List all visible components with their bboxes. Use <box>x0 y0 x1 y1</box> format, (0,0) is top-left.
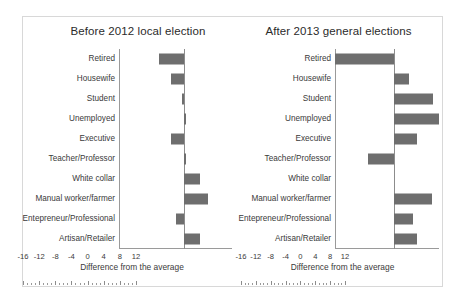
category-label: Unemployed <box>285 115 331 123</box>
plot-left-border <box>119 49 120 249</box>
axis-tick-label: 0 <box>85 253 89 261</box>
bar <box>394 214 413 225</box>
axis-minor-tick <box>92 283 93 285</box>
axis-minor-tick <box>128 283 129 285</box>
category-label: Executive <box>80 135 116 143</box>
axis-minor-tick <box>293 283 294 285</box>
axis-minor-tick <box>47 283 48 285</box>
category-label: Student <box>303 95 331 103</box>
axis-minor-tick <box>289 283 290 285</box>
axis-tick-label: -12 <box>250 253 261 261</box>
category-label: Entepreneur/Professional <box>239 215 331 223</box>
bar <box>335 54 394 65</box>
category-label: Entepreneur/Professional <box>23 215 115 223</box>
plot-area-after: RetiredHousewifeStudentUnemployedExecuti… <box>335 49 439 249</box>
bar <box>394 114 439 125</box>
axis-tick-label: 8 <box>328 253 332 261</box>
axis-minor-tick <box>282 283 283 285</box>
axis-tick-label: 0 <box>298 253 302 261</box>
axis-minor-tick <box>304 283 305 285</box>
axis-tick <box>120 281 121 285</box>
category-label: Manual worker/farmer <box>251 195 331 203</box>
x-axis-title-before: Difference from the average <box>23 263 241 271</box>
bar <box>171 134 183 145</box>
x-axis-after: -16-12-8-404812 Difference from the aver… <box>241 249 444 285</box>
axis-tick-label: 4 <box>102 253 106 261</box>
axis-minor-tick <box>248 283 249 285</box>
axis-minor-tick <box>80 283 81 285</box>
bar <box>171 74 183 85</box>
panel-title-before: Before 2012 local election <box>29 25 247 37</box>
axis-minor-tick <box>308 283 309 285</box>
x-axis-title-after: Difference from the average <box>241 263 444 271</box>
axis-minor-tick <box>323 283 324 285</box>
category-label: Retired <box>89 55 115 63</box>
axis-minor-tick <box>51 283 52 285</box>
axis-tick-label: 8 <box>118 253 122 261</box>
axis-minor-tick <box>59 283 60 285</box>
bar <box>184 234 200 245</box>
axis-minor-tick <box>124 283 125 285</box>
category-label: Retired <box>305 55 331 63</box>
category-label: White collar <box>72 175 115 183</box>
axis-minor-tick <box>245 283 246 285</box>
axis-tick-label: -8 <box>267 253 274 261</box>
axis-tick-label: -16 <box>18 253 29 261</box>
axis-tick-label: 12 <box>132 253 140 261</box>
category-label: Artisan/Retailer <box>275 235 331 243</box>
category-label: Housewife <box>77 75 115 83</box>
axis-tick <box>39 281 40 285</box>
bar <box>184 194 208 205</box>
category-label: White collar <box>288 175 331 183</box>
bar <box>394 74 409 85</box>
axis-minor-tick <box>278 283 279 285</box>
bar <box>394 194 431 205</box>
axis-tick-label: -12 <box>34 253 45 261</box>
axis-tick <box>23 281 24 285</box>
x-axis-before: -16-12-8-404812 Difference from the aver… <box>23 249 241 285</box>
bar <box>176 214 184 225</box>
axis-minor-tick <box>132 283 133 285</box>
axis-minor-tick <box>341 283 342 285</box>
axis-tick <box>88 281 89 285</box>
category-label: Artisan/Retailer <box>59 235 115 243</box>
axis-tick <box>300 281 301 285</box>
axis-minor-tick <box>75 283 76 285</box>
zero-reference-line <box>184 49 185 249</box>
axis-minor-tick <box>27 283 28 285</box>
category-label: Teacher/Professor <box>49 155 115 163</box>
axis-minor-tick <box>84 283 85 285</box>
axis-tick <box>345 281 346 285</box>
category-label: Student <box>87 95 115 103</box>
category-label: Housewife <box>293 75 331 83</box>
axis-minor-tick <box>35 283 36 285</box>
axis-minor-tick <box>96 283 97 285</box>
category-label: Executive <box>296 135 332 143</box>
axis-minor-tick <box>112 283 113 285</box>
plot-area-before: RetiredHousewifeStudentUnemployedExecuti… <box>119 49 232 249</box>
axis-tick-label: -16 <box>236 253 247 261</box>
bar <box>159 54 183 65</box>
axis-tick <box>256 281 257 285</box>
axis-minor-tick <box>43 283 44 285</box>
axis-minor-tick <box>108 283 109 285</box>
axis-minor-tick <box>319 283 320 285</box>
bar <box>184 154 186 165</box>
axis-minor-tick <box>63 283 64 285</box>
axis-minor-tick <box>267 283 268 285</box>
axis-tick <box>241 281 242 285</box>
bar <box>394 134 416 145</box>
axis-tick-label: -4 <box>282 253 289 261</box>
category-label: Manual worker/farmer <box>35 195 115 203</box>
axis-tick-label: 12 <box>341 253 349 261</box>
axis-tick <box>271 281 272 285</box>
axis-minor-tick <box>338 283 339 285</box>
axis-minor-tick <box>326 283 327 285</box>
bar <box>394 94 433 105</box>
axis-minor-tick <box>100 283 101 285</box>
category-label: Unemployed <box>69 115 115 123</box>
axis-minor-tick <box>252 283 253 285</box>
axis-tick-label: -8 <box>52 253 59 261</box>
axis-minor-tick <box>263 283 264 285</box>
panel-title-after: After 2013 general elections <box>237 25 440 37</box>
